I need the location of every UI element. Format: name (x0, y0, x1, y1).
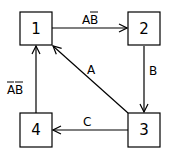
label-1-to-2: A B (82, 12, 98, 27)
svg-text:B: B (15, 83, 23, 97)
state-1-label: 1 (31, 20, 41, 38)
state-3-label: 3 (139, 121, 149, 139)
label-3-to-1: A (87, 63, 96, 77)
label-3-to-4: C (83, 115, 91, 129)
edge-3-to-1 (53, 46, 128, 113)
label-2-to-3: B (149, 64, 157, 78)
state-2: 2 (128, 12, 160, 45)
state-4-label: 4 (31, 121, 41, 139)
state-1: 1 (20, 12, 52, 45)
state-3: 3 (128, 113, 160, 147)
label-4-to-1: A B (7, 82, 23, 97)
state-2-label: 2 (139, 20, 149, 38)
state-4: 4 (20, 113, 52, 147)
svg-text:B: B (90, 13, 98, 27)
state-diagram: 1 2 3 4 A B B A C A B (0, 0, 174, 155)
